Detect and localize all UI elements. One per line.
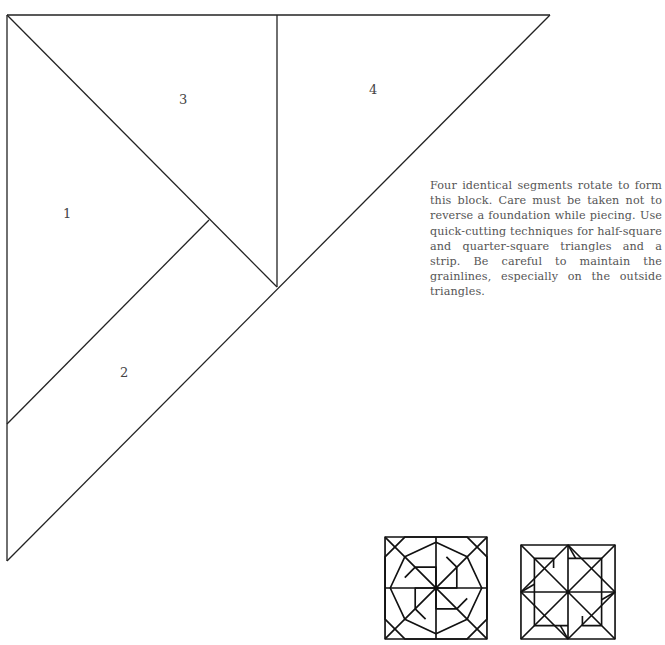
segment-label-1: 1 (63, 206, 71, 221)
segment-label-3: 3 (179, 92, 187, 107)
seam-1-3 (7, 15, 277, 287)
segment-label-4: 4 (369, 82, 377, 97)
block-diagram-a (384, 536, 488, 640)
seam-1-2 (7, 220, 209, 424)
instructions-text: Four identical segments rotate to form t… (430, 178, 662, 300)
block-diagram-b (520, 544, 616, 640)
segment-label-2: 2 (120, 365, 128, 380)
